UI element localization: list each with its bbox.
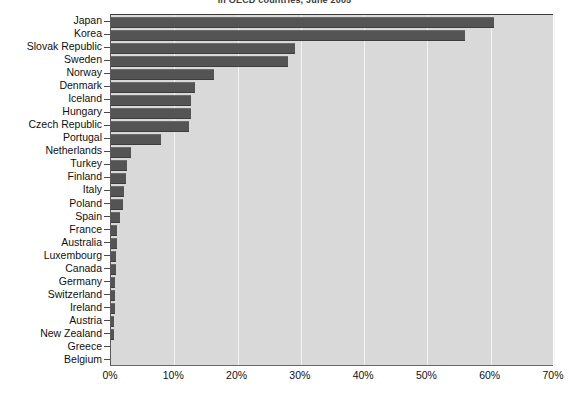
bar [111, 108, 191, 119]
bar [111, 56, 288, 67]
bar [111, 238, 117, 249]
category-label: New Zealand [0, 327, 106, 340]
bar [111, 264, 116, 275]
bar-series [111, 15, 553, 365]
bar [111, 82, 195, 93]
category-label: Korea [0, 27, 106, 40]
chart-title: in OECD countries, June 2005 [0, 0, 569, 6]
category-label: Austria [0, 314, 106, 327]
bar [111, 303, 115, 314]
category-label: Japan [0, 14, 106, 27]
category-label: Luxembourg [0, 249, 106, 262]
category-axis-labels: JapanKoreaSlovak RepublicSwedenNorwayDen… [0, 14, 106, 366]
category-label: Switzerland [0, 288, 106, 301]
bar [111, 186, 124, 197]
category-label: Belgium [0, 353, 106, 366]
category-label: Denmark [0, 79, 106, 92]
bar [111, 147, 131, 158]
value-axis-label: 60% [465, 368, 515, 382]
bar [111, 316, 114, 327]
value-axis-label: 0% [85, 368, 135, 382]
category-label: Iceland [0, 92, 106, 105]
category-label: Australia [0, 236, 106, 249]
bar [111, 225, 117, 236]
category-label: Canada [0, 262, 106, 275]
bar [111, 134, 161, 145]
value-axis-label: 70% [528, 368, 569, 382]
category-label: Germany [0, 275, 106, 288]
category-label: France [0, 223, 106, 236]
category-label: Portugal [0, 131, 106, 144]
bar [111, 160, 127, 171]
bar [111, 212, 120, 223]
bar [111, 121, 189, 132]
bar [111, 43, 295, 54]
category-label: Hungary [0, 105, 106, 118]
bar [111, 95, 191, 106]
bar [111, 17, 494, 28]
category-label: Spain [0, 210, 106, 223]
bar-chart: in OECD countries, June 2005 JapanKoreaS… [0, 0, 569, 398]
value-axis-labels: 0%10%20%30%40%50%60%70% [0, 368, 569, 384]
category-label: Greece [0, 340, 106, 353]
value-axis-label: 20% [212, 368, 262, 382]
bar-row [111, 354, 554, 368]
value-axis-label: 10% [148, 368, 198, 382]
category-label: Slovak Republic [0, 40, 106, 53]
value-axis-label: 30% [275, 368, 325, 382]
bar [111, 329, 114, 340]
bar [111, 290, 115, 301]
bar [111, 277, 115, 288]
value-axis-label: 40% [338, 368, 388, 382]
category-label: Norway [0, 66, 106, 79]
bar [111, 69, 214, 80]
bar [111, 173, 126, 184]
category-label: Finland [0, 170, 106, 183]
bar [111, 30, 465, 41]
category-label: Italy [0, 183, 106, 196]
category-label: Poland [0, 197, 106, 210]
category-label: Ireland [0, 301, 106, 314]
plot-area [110, 14, 553, 366]
category-label: Sweden [0, 53, 106, 66]
value-axis-label: 50% [401, 368, 451, 382]
bar [111, 199, 123, 210]
bar [111, 251, 116, 262]
category-label: Turkey [0, 157, 106, 170]
gridline [554, 15, 555, 365]
category-label: Netherlands [0, 144, 106, 157]
category-label: Czech Republic [0, 118, 106, 131]
